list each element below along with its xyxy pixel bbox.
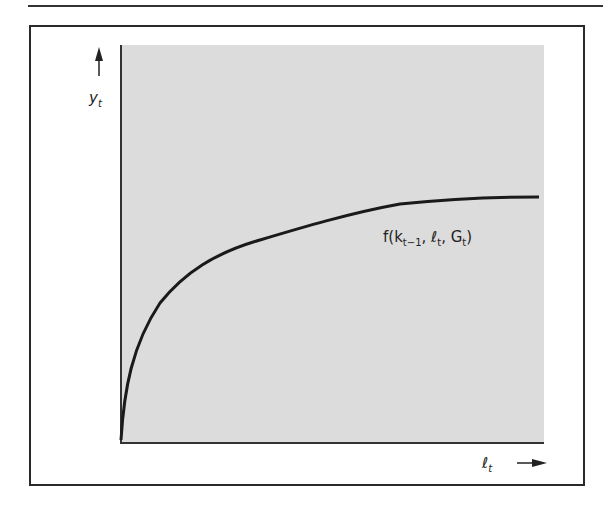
x-axis-label: ℓt [482,454,492,474]
x-axis-arrow-icon [517,459,547,467]
curve-label: f(kt−1, ℓt, Gt) [383,228,472,248]
y-axis-arrow-icon [95,47,103,76]
y-axis-label: yt [89,89,102,109]
chart-overlay [0,0,603,506]
production-curve [121,197,539,440]
